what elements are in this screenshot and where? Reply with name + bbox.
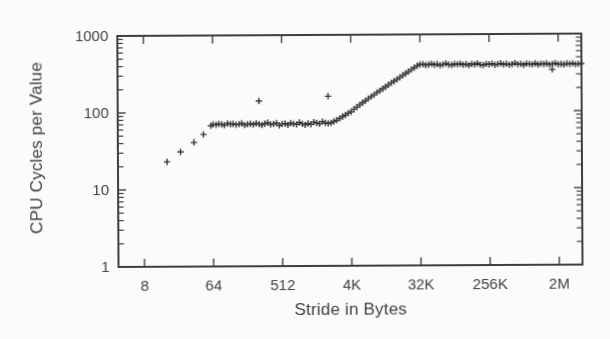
y-axis-title: CPU Cycles per Value <box>25 48 47 248</box>
x-tick-label: 512 <box>270 276 295 293</box>
point-marker <box>191 139 197 145</box>
stride-benchmark-chart: 8645124K32K256K2M1101001000 CPU Cycles p… <box>0 0 610 339</box>
plot-frame <box>117 34 582 267</box>
x-tick-label: 2M <box>549 275 570 292</box>
x-tick-label: 256K <box>473 275 508 292</box>
point-marker <box>200 131 206 137</box>
x-tick-label: 64 <box>205 276 222 293</box>
y-tick-label: 10 <box>92 181 109 198</box>
x-tick-label: 8 <box>140 277 148 294</box>
x-tick-label: 4K <box>343 276 361 293</box>
point-marker <box>325 93 331 99</box>
point-marker <box>164 159 170 165</box>
scanned-figure-page: 8645124K32K256K2M1101001000 CPU Cycles p… <box>0 0 610 339</box>
x-axis-title: Stride in Bytes <box>119 299 583 321</box>
y-tick-label: 1000 <box>75 27 108 44</box>
point-marker <box>256 98 262 104</box>
point-marker <box>177 149 183 155</box>
x-tick-label: 32K <box>408 275 435 292</box>
y-tick-label: 1 <box>101 258 109 275</box>
plot-canvas: 8645124K32K256K2M1101001000 <box>0 0 610 339</box>
y-tick-label: 100 <box>84 104 109 121</box>
